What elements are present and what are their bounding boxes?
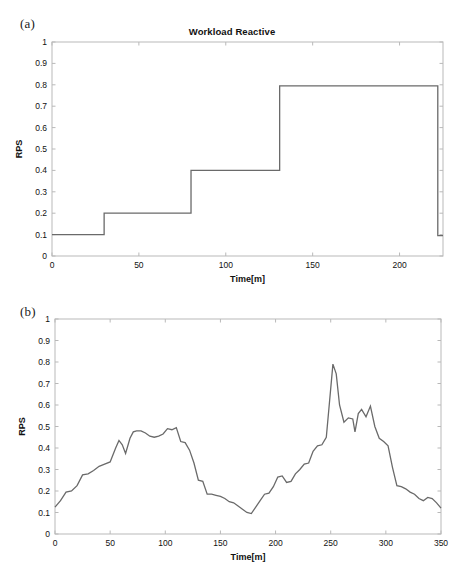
panel-a-plot: 00.10.20.30.40.50.60.70.80.9105010015020… [0, 0, 464, 288]
y-tick-label: 0 [42, 251, 47, 261]
x-tick-label: 200 [268, 538, 282, 548]
y-tick-label: 0.1 [38, 508, 50, 518]
y-tick-label: 1 [45, 314, 50, 324]
y-tick-label: 0.4 [35, 165, 47, 175]
y-tick-label: 1 [42, 37, 47, 47]
x-tick-label: 150 [306, 260, 320, 270]
figure-container: (a) Workload Reactive 00.10.20.30.40.50.… [0, 0, 464, 576]
plot-frame [55, 319, 441, 534]
x-tick-label: 0 [50, 260, 55, 270]
y-tick-label: 0.5 [35, 144, 47, 154]
y-tick-label: 0.1 [35, 230, 47, 240]
plot-frame [52, 42, 443, 256]
y-tick-label: 0.9 [38, 336, 50, 346]
y-tick-label: 0.9 [35, 58, 47, 68]
x-axis-title: Time[m] [231, 552, 266, 562]
x-tick-label: 300 [379, 538, 393, 548]
y-axis-title: RPS [17, 417, 27, 436]
y-tick-label: 0.2 [38, 486, 50, 496]
y-tick-label: 0.8 [38, 357, 50, 367]
y-tick-label: 0 [45, 529, 50, 539]
y-tick-label: 0.8 [35, 80, 47, 90]
y-tick-label: 0.3 [35, 187, 47, 197]
y-tick-label: 0.4 [38, 443, 50, 453]
panel-b-workload-bimodal: (b) Workload Bimodal 00.10.20.30.40.50.6… [0, 288, 464, 576]
y-tick-label: 0.7 [38, 379, 50, 389]
x-tick-label: 100 [158, 538, 172, 548]
data-series-line [55, 364, 441, 513]
x-tick-label: 50 [105, 538, 115, 548]
x-tick-label: 100 [219, 260, 233, 270]
panel-a-workload-reactive: (a) Workload Reactive 00.10.20.30.40.50.… [0, 0, 464, 288]
x-tick-label: 0 [53, 538, 58, 548]
y-tick-label: 0.2 [35, 208, 47, 218]
x-tick-label: 200 [392, 260, 406, 270]
y-tick-label: 0.6 [35, 123, 47, 133]
y-tick-label: 0.5 [38, 422, 50, 432]
x-tick-label: 50 [134, 260, 144, 270]
y-tick-label: 0.7 [35, 101, 47, 111]
x-tick-label: 350 [434, 538, 448, 548]
x-tick-label: 150 [213, 538, 227, 548]
x-tick-label: 250 [324, 538, 338, 548]
y-tick-label: 0.6 [38, 400, 50, 410]
y-axis-title: RPS [14, 140, 24, 159]
data-series-line [52, 86, 443, 236]
y-tick-label: 0.3 [38, 465, 50, 475]
panel-b-plot: 00.10.20.30.40.50.60.70.80.9105010015020… [0, 288, 464, 576]
x-axis-title: Time[m] [230, 274, 265, 284]
